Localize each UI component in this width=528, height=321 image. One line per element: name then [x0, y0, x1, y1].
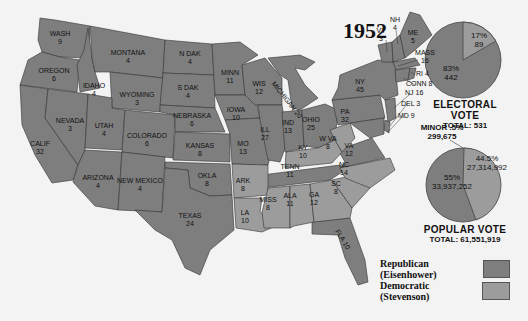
election-map: 1952 WASH9 OREGON6 CALIF32 IDAHO4 NEVADA… — [0, 0, 528, 321]
label-nevada: NEVADA3 — [56, 117, 84, 133]
label-mass: MASS16 — [415, 49, 435, 65]
label-nebraska: NEBRASKA6 — [173, 112, 211, 128]
label-me: ME5 — [408, 29, 419, 45]
label-newmexico: NEW MEXICO4 — [117, 177, 163, 193]
label-montana: MONTANA4 — [111, 49, 145, 65]
label-wash: WASH9 — [50, 30, 71, 46]
label-ndak: N DAK4 — [179, 50, 200, 66]
label-nh: NH4 — [390, 16, 400, 32]
popular-dem-label: 44.5%27,314,992 — [467, 154, 507, 172]
label-nj: NJ 16 — [405, 89, 423, 96]
electoral-dem-label: 17%89 — [471, 31, 487, 49]
label-wva: W VA8 — [319, 135, 336, 151]
label-colorado: COLORADO6 — [127, 132, 167, 148]
label-pa: PA32 — [341, 108, 350, 124]
label-sc: SC8 — [331, 180, 341, 196]
label-minn: MINN11 — [221, 69, 239, 85]
label-texas: TEXAS24 — [179, 212, 202, 228]
label-ga: GA12 — [309, 191, 319, 207]
label-conn: CONN 8 — [406, 80, 432, 87]
label-vt: VT3 — [377, 27, 386, 43]
legend: Republican (Eisenhower) Democratic (Stev… — [380, 258, 510, 302]
label-utah: UTAH4 — [95, 122, 114, 138]
label-ind: IND13 — [282, 119, 294, 135]
popular-rep-label: 55%33,937,252 — [432, 173, 472, 191]
state-vt — [378, 42, 393, 62]
electoral-rep-label: 83%442 — [443, 64, 459, 82]
label-la: LA10 — [241, 209, 250, 225]
label-oregon: OREGON6 — [38, 67, 69, 83]
label-mo: MO13 — [237, 140, 248, 156]
legend-republican-label: Republican (Eisenhower) — [380, 258, 477, 280]
label-okla: OKLA8 — [198, 172, 217, 188]
label-iowa: IOWA10 — [227, 106, 245, 122]
electoral-pie-chart — [425, 22, 501, 98]
label-tenn: TENN11 — [280, 163, 299, 179]
label-arizona: ARIZONA4 — [82, 174, 113, 190]
label-miss: MISS8 — [259, 196, 276, 212]
label-wis: WIS12 — [252, 80, 265, 96]
label-ri: RI 4 — [416, 70, 429, 77]
legend-democratic: Democratic (Stevenson) — [380, 280, 510, 302]
label-ark: ARK8 — [236, 177, 250, 193]
label-idaho: IDAHO4 — [83, 82, 105, 98]
state-nj — [385, 98, 396, 122]
popular-caption: POPULAR VOTE TOTAL: 61,551,919 — [418, 224, 512, 244]
label-ill: ILL27 — [260, 126, 270, 142]
legend-republican: Republican (Eisenhower) — [380, 258, 510, 280]
label-calif: CALIF32 — [30, 140, 50, 156]
label-kansas: KANSAS8 — [186, 142, 214, 158]
legend-democratic-swatch — [482, 282, 510, 300]
label-ala: ALA11 — [283, 192, 296, 208]
label-wyoming: WYOMING3 — [120, 91, 155, 107]
label-md: MD 9 — [398, 112, 415, 119]
legend-democratic-label: Democratic (Stevenson) — [380, 280, 476, 302]
label-ky: KY10 — [298, 144, 307, 160]
label-ohio: OHIO25 — [302, 116, 320, 132]
label-va: VA12 — [345, 142, 354, 158]
label-ny: NY45 — [355, 78, 365, 94]
popular-minor-label: MINOR .5%299,675 — [421, 123, 464, 141]
label-sdak: S DAK4 — [177, 84, 198, 100]
label-nc: NC14 — [339, 161, 349, 177]
legend-republican-swatch — [483, 260, 510, 278]
